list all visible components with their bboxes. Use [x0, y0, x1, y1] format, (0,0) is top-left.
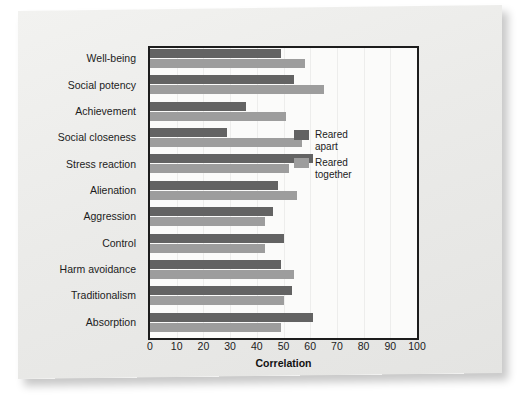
x-tick-label: 90 [384, 340, 396, 352]
bar-reared-apart [150, 260, 281, 269]
legend-swatch-reared-together [294, 158, 309, 168]
bar-row [150, 312, 417, 338]
bar-reared-apart [150, 128, 227, 137]
category-label: Achievement [75, 106, 136, 117]
legend-item-reared-apart: Reared apart [294, 129, 371, 152]
bar-reared-apart [150, 154, 313, 163]
bar-reared-apart [150, 49, 281, 58]
x-tick-label: 100 [408, 340, 426, 352]
legend-swatch-reared-apart [294, 130, 309, 140]
bar-row [150, 285, 417, 311]
bar-reared-apart [150, 102, 246, 111]
bar-reared-together [150, 191, 297, 200]
category-label: Harm avoidance [60, 264, 136, 275]
x-tick-label: 30 [224, 340, 236, 352]
bar-reared-together [150, 138, 302, 147]
bar-row [150, 74, 417, 100]
x-tick-label: 70 [331, 340, 343, 352]
category-label: Alienation [90, 185, 136, 196]
bar-row [150, 101, 417, 127]
bar-row [150, 206, 417, 232]
bar-reared-together [150, 59, 305, 68]
legend-label-reared-apart: Reared apart [315, 129, 371, 152]
bar-row [150, 233, 417, 259]
bar-rows [150, 48, 417, 338]
bar-row [150, 180, 417, 206]
bar-row [150, 259, 417, 285]
category-label: Social potency [68, 80, 136, 91]
bar-reared-together [150, 164, 289, 173]
bar-reared-together [150, 244, 265, 253]
bar-row [150, 48, 417, 74]
x-tick-label: 40 [251, 340, 263, 352]
category-label: Absorption [86, 317, 136, 328]
x-tick-label: 60 [304, 340, 316, 352]
bar-reared-together [150, 270, 294, 279]
bar-reared-together [150, 217, 265, 226]
x-tick-label: 0 [147, 340, 153, 352]
category-label: Social closeness [58, 132, 136, 143]
category-label: Traditionalism [71, 290, 136, 301]
bar-reared-apart [150, 181, 278, 190]
x-axis-ticks: 0102030405060708090100 [148, 340, 419, 356]
category-label: Well-being [87, 53, 136, 64]
bar-reared-apart [150, 207, 273, 216]
bar-reared-apart [150, 313, 313, 322]
x-tick-label: 50 [278, 340, 290, 352]
bar-reared-together [150, 323, 281, 332]
bar-reared-apart [150, 75, 294, 84]
x-tick-label: 80 [358, 340, 370, 352]
figure-card: Well-beingSocial potencyAchievementSocia… [18, 5, 502, 379]
plot-area [148, 46, 419, 340]
bar-reared-together [150, 112, 286, 121]
legend-label-reared-together: Reared together [315, 157, 371, 180]
legend-item-reared-together: Reared together [294, 157, 371, 180]
chart-legend: Reared apart Reared together [294, 129, 371, 185]
category-axis-labels: Well-beingSocial potencyAchievementSocia… [18, 46, 144, 336]
bar-reared-apart [150, 286, 292, 295]
bar-reared-together [150, 296, 284, 305]
category-label: Stress reaction [66, 159, 136, 170]
bar-row [150, 153, 417, 179]
x-axis-title: Correlation [148, 357, 419, 369]
figure-card-inner: Well-beingSocial potencyAchievementSocia… [18, 8, 502, 376]
bar-reared-together [150, 85, 324, 94]
bar-row [150, 127, 417, 153]
bar-reared-apart [150, 234, 284, 243]
x-tick-label: 20 [198, 340, 210, 352]
category-label: Aggression [83, 211, 136, 222]
category-label: Control [102, 238, 136, 249]
x-tick-label: 10 [171, 340, 183, 352]
